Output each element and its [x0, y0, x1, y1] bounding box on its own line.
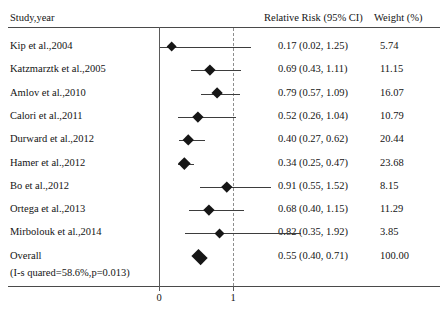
weight-value: 100.00 — [380, 250, 409, 261]
effect-size-value: 0.68 (0.40, 1.15) — [278, 203, 348, 214]
study-effect-marker — [166, 42, 176, 52]
confidence-interval-line — [178, 117, 236, 118]
study-label: Calori et al.,2011 — [10, 110, 83, 121]
weight-value: 10.79 — [380, 110, 404, 121]
effect-size-value: 0.52 (0.26, 1.04) — [278, 110, 348, 121]
effect-size-value: 0.82 (0.35, 1.92) — [278, 226, 348, 237]
weight-value: 8.15 — [380, 180, 398, 191]
effect-size-value: 0.17 (0.02, 1.25) — [278, 40, 348, 51]
study-effect-marker — [204, 205, 215, 216]
null-effect-reference-line — [233, 28, 234, 286]
study-label: Kip et al.,2004 — [10, 40, 72, 51]
study-effect-marker — [178, 157, 190, 169]
plot-left-boundary-line — [159, 27, 160, 286]
overall-summary-diamond — [192, 249, 208, 265]
effect-size-value: 0.79 (0.57, 1.09) — [278, 87, 348, 98]
x-axis-tick-label-1: 1 — [223, 292, 243, 303]
study-effect-marker — [192, 111, 203, 122]
study-label: Bo et al.,2012 — [10, 180, 69, 191]
column-header-study: Study,year — [10, 12, 55, 23]
study-label: Ortega et al.,2013 — [10, 203, 85, 214]
effect-size-value: 0.40 (0.27, 0.62) — [278, 133, 348, 144]
overall-row-label: Overall — [10, 250, 42, 261]
x-axis-tick-0 — [159, 286, 160, 291]
effect-size-value: 0.55 (0.40, 0.71) — [278, 250, 348, 261]
study-label: Durward et al.,2012 — [10, 133, 94, 144]
study-label: Amlov et al.,2010 — [10, 87, 86, 98]
weight-value: 20.44 — [380, 133, 404, 144]
confidence-interval-line — [200, 187, 272, 188]
study-effect-marker — [215, 228, 225, 238]
confidence-interval-line — [191, 70, 241, 71]
weight-value: 11.15 — [380, 63, 403, 74]
study-effect-marker — [212, 88, 224, 100]
weight-value: 23.68 — [380, 157, 404, 168]
weight-value: 3.85 — [380, 226, 398, 237]
study-label: Mirbolouk et al.,2014 — [10, 226, 102, 237]
heterogeneity-statistic: (I-s quared=58.6%,p=0.013) — [10, 267, 130, 278]
weight-value: 16.07 — [380, 87, 404, 98]
weight-value: 5.74 — [380, 40, 398, 51]
header-divider-line — [8, 27, 440, 28]
effect-size-value: 0.34 (0.25, 0.47) — [278, 157, 348, 168]
effect-size-value: 0.91 (0.55, 1.52) — [278, 180, 348, 191]
x-axis-tick-1 — [233, 286, 234, 291]
x-axis-tick-label-0: 0 — [149, 292, 169, 303]
x-axis-line — [8, 286, 440, 287]
study-effect-marker — [205, 65, 216, 76]
column-header-weight: Weight (%) — [374, 12, 422, 23]
weight-value: 11.29 — [380, 203, 403, 214]
confidence-interval-line — [189, 210, 245, 211]
study-effect-marker — [221, 181, 232, 192]
column-header-effect: Relative Risk (95% CI) — [264, 12, 363, 23]
study-label: Hamer et al.,2012 — [10, 157, 85, 168]
confidence-interval-line — [185, 233, 301, 234]
forest-plot: Study,year Relative Risk (95% CI) Weight… — [0, 0, 447, 318]
study-effect-marker — [183, 134, 195, 146]
study-label: Katzmarztk et al.,2005 — [10, 63, 106, 74]
effect-size-value: 0.69 (0.43, 1.11) — [278, 63, 348, 74]
